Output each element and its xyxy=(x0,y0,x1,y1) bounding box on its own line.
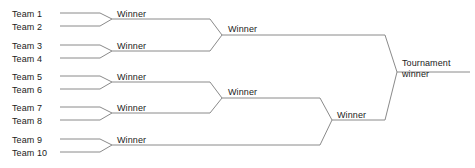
round1-winner-label-4: Winner xyxy=(117,103,146,114)
round1-winner-label-1: Winner xyxy=(117,9,146,20)
team-label-5: Team 5 xyxy=(12,72,42,83)
round3-match-1-connector xyxy=(300,98,385,145)
tournament-bracket-diagram: Team 1 Team 2 Team 3 Team 4 Team 5 Team … xyxy=(0,0,475,168)
round1-winner-label-5: Winner xyxy=(117,135,146,146)
team-label-7: Team 7 xyxy=(12,103,42,114)
team-label-6: Team 6 xyxy=(12,85,42,96)
team-label-2: Team 2 xyxy=(12,22,42,33)
team-label-9: Team 9 xyxy=(12,135,42,146)
round1-match-5-connector xyxy=(60,139,305,152)
team-label-8: Team 8 xyxy=(12,116,42,127)
round2-winner-label-2: Winner xyxy=(228,87,257,98)
round1-winner-label-2: Winner xyxy=(117,41,146,52)
tournament-winner-label-line1: Tournament xyxy=(402,58,451,69)
team-label-1: Team 1 xyxy=(12,9,42,20)
round3-winner-label-1: Winner xyxy=(337,110,366,121)
tournament-winner-label-line2: winner xyxy=(402,69,429,80)
round2-winner-label-1: Winner xyxy=(228,24,257,35)
team-label-10: Team 10 xyxy=(12,148,47,159)
team-label-3: Team 3 xyxy=(12,41,42,52)
round1-winner-label-3: Winner xyxy=(117,72,146,83)
team-label-4: Team 4 xyxy=(12,54,42,65)
